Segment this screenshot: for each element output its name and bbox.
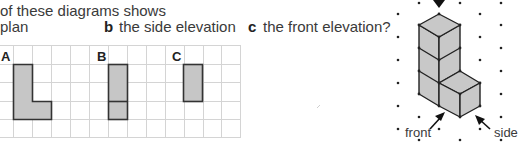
label-a: A — [1, 49, 11, 64]
side-label: side — [494, 124, 518, 141]
front-label: front — [405, 124, 431, 141]
shape-c — [184, 65, 203, 102]
side-arrow-icon — [475, 115, 490, 129]
isometric-diagram — [397, 0, 503, 141]
shape-b — [109, 65, 128, 120]
plan-arrow-icon — [433, 0, 445, 8]
shape-a — [14, 65, 52, 120]
label-b: B — [97, 49, 106, 64]
front-arrow-icon — [430, 112, 445, 129]
label-c: C — [172, 49, 182, 64]
